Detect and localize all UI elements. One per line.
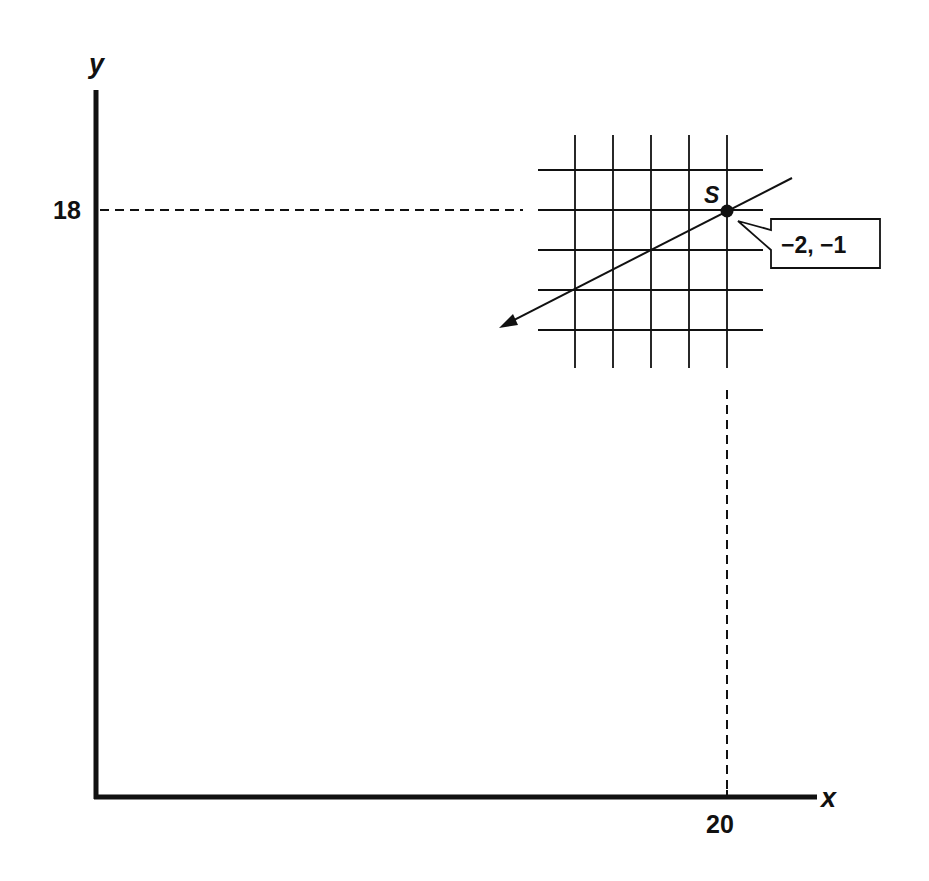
x-tick-label-20: 20 [706, 810, 734, 838]
x-axis-label: x [819, 783, 837, 813]
point-s [721, 205, 734, 218]
y-tick-label-18: 18 [53, 196, 81, 224]
point-s-label: S [704, 182, 720, 208]
arrowhead-icon [499, 314, 518, 328]
local-grid [538, 135, 763, 368]
callout-text: −2, −1 [781, 232, 846, 258]
coordinate-diagram: y x 18 20 S −2, −1 [0, 0, 929, 881]
y-axis-label: y [87, 49, 106, 79]
